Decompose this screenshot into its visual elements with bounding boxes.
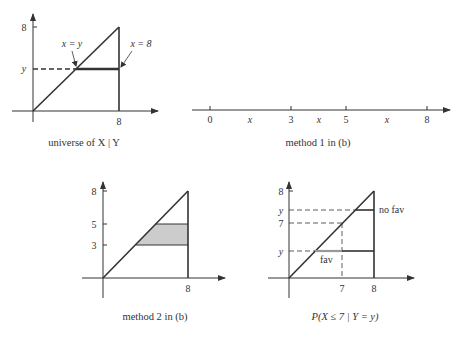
panel-method2: 8 5 3 8 method 2 in (b) xyxy=(82,182,225,323)
tick-3-y: 3 xyxy=(92,240,97,251)
label-no-fav: no fav xyxy=(379,204,404,215)
tick-8-x: 8 xyxy=(186,283,191,294)
tick-8-y: 8 xyxy=(22,22,27,33)
panel-universe: 8 y 8 x = y x = 8 universe of X | Y xyxy=(12,14,158,148)
tick-y: y xyxy=(21,63,27,74)
tick-8-y: 8 xyxy=(92,186,97,197)
panel-method1: 0 3 5 8 x x x method 1 in (b) xyxy=(192,106,450,149)
tick-8: 8 xyxy=(425,114,430,125)
caption-method2: method 2 in (b) xyxy=(122,311,188,323)
shaded-region xyxy=(136,224,188,245)
tick-8-y: 8 xyxy=(279,186,284,197)
caption-universe: universe of X | Y xyxy=(48,137,120,148)
label-fav: fav xyxy=(320,254,333,265)
interval-x-2: x xyxy=(316,114,322,125)
tick-5-y: 5 xyxy=(92,219,97,230)
tick-7-y: 7 xyxy=(279,218,284,229)
panel-prob: 8 y 7 y 7 8 no fav fav P(X ≤ 7 | Y = y) xyxy=(268,182,414,323)
tick-8-x: 8 xyxy=(117,116,122,127)
tick-y-upper: y xyxy=(278,205,284,216)
tick-3: 3 xyxy=(289,114,294,125)
label-x-eq-y: x = y xyxy=(61,38,83,49)
tick-5: 5 xyxy=(344,114,349,125)
tick-8-x: 8 xyxy=(372,283,377,294)
interval-x-1: x xyxy=(247,114,253,125)
caption-method1: method 1 in (b) xyxy=(285,137,351,149)
interval-x-3: x xyxy=(384,114,390,125)
caption-prob: P(X ≤ 7 | Y = y) xyxy=(310,311,379,323)
label-x-eq-8: x = 8 xyxy=(129,38,151,49)
tick-y-lower: y xyxy=(278,246,284,257)
tick-7-x: 7 xyxy=(340,283,345,294)
tick-0: 0 xyxy=(208,114,213,125)
